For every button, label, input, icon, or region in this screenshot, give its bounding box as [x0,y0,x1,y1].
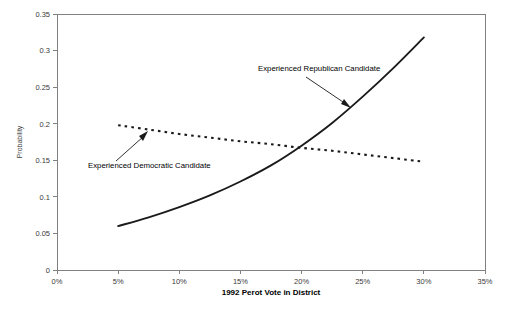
x-tick-label: 30% [416,277,431,286]
chart-background [0,0,512,309]
x-tick-label: 5% [113,277,124,286]
x-tick-label: 25% [355,277,370,286]
x-tick-label: 20% [294,277,309,286]
y-axis-title: Probability [16,125,24,158]
x-tick-label: 35% [477,277,492,286]
x-tick-label: 0% [52,277,63,286]
y-tick-label: 0.15 [35,156,50,165]
y-tick-label: 0.1 [40,193,50,202]
y-tick-label: 0 [46,266,50,275]
x-tick-label: 15% [233,277,248,286]
annotation-label-republican: Experienced Republican Candidate [258,64,380,73]
y-tick-label: 0.35 [35,10,50,19]
y-tick-label: 0.3 [40,46,50,55]
y-tick-label: 0.05 [35,229,50,238]
probability-line-chart: 00.050.10.150.20.250.30.35 0%5%10%15%20%… [0,0,512,309]
chart-container: 00.050.10.150.20.250.30.35 0%5%10%15%20%… [0,0,512,309]
x-tick-label: 10% [172,277,187,286]
annotation-label-democratic: Experienced Democratic Candidate [88,161,211,170]
y-tick-label: 0.25 [35,83,50,92]
x-axis-title: 1992 Perot Vote in District [222,288,321,297]
y-tick-label: 0.2 [40,120,50,129]
